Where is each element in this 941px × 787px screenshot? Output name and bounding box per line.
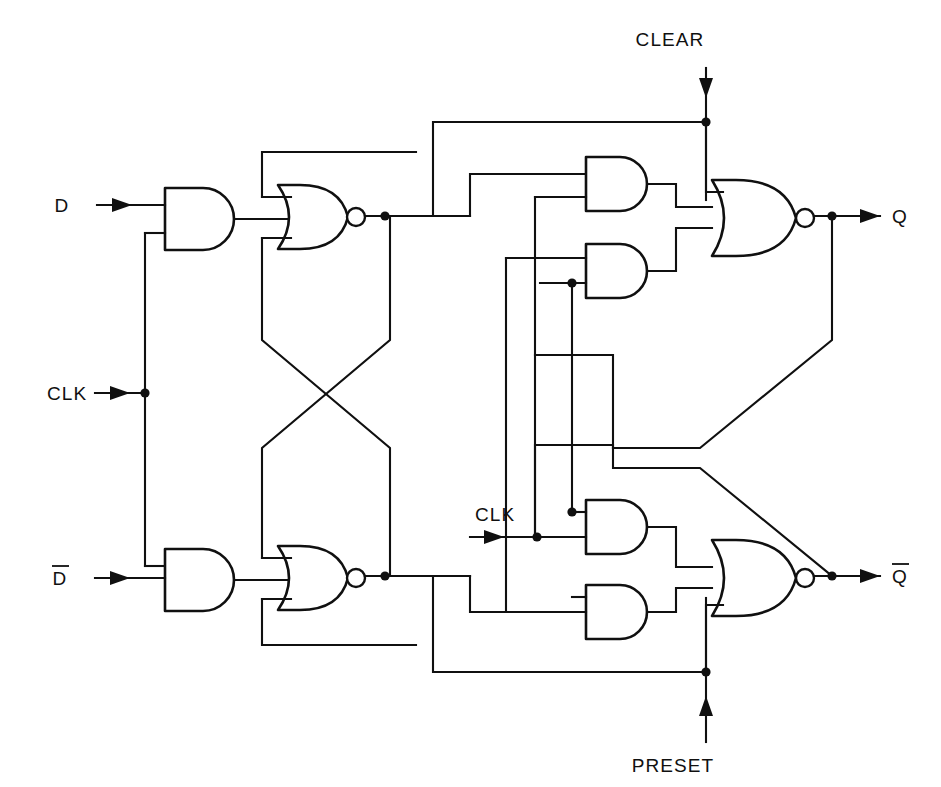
- label-q-bar: Q: [892, 564, 909, 587]
- label-clk-right: CLK: [475, 504, 515, 525]
- wire-cross-slave-b2: [535, 355, 613, 448]
- wire-cross-slave-a: [535, 445, 832, 576]
- gate-and-slave-q-top: [586, 157, 647, 211]
- arrow-clear-input: [699, 78, 713, 98]
- gate-nor-master-bottom: [278, 546, 365, 610]
- label-d-text: D: [55, 195, 70, 216]
- wire-cross-master-a: [262, 238, 390, 576]
- gate-nor-slave-qbar: [712, 540, 814, 616]
- circuit-schematic: D CLK D CLEAR CLK PRESET Q Q: [0, 0, 941, 787]
- wire-cross-master-b: [262, 216, 390, 558]
- label-d: D: [55, 195, 70, 216]
- arrow-d-input: [112, 198, 132, 212]
- bubble-nor-master-bottom: [347, 569, 365, 587]
- gate-and-slave-qbar-top: [586, 500, 647, 554]
- wire-master-q-branch: [470, 174, 586, 216]
- label-q: Q: [892, 206, 908, 227]
- bubble-nor-master-top: [347, 208, 365, 226]
- label-clear-text: CLEAR: [636, 29, 705, 50]
- junction-clk-left: [140, 388, 149, 397]
- label-d-bar: D: [52, 566, 69, 589]
- label-clk-left: CLK: [47, 383, 87, 404]
- bubble-nor-slave-qbar: [796, 569, 814, 587]
- gate-and-master-top: [165, 188, 234, 250]
- junction-master-qbar: [380, 571, 389, 580]
- label-q-text: Q: [892, 206, 908, 227]
- label-clk-right-text: CLK: [475, 504, 515, 525]
- label-clk-left-text: CLK: [47, 383, 87, 404]
- label-d-bar-text: D: [53, 568, 68, 589]
- arrow-clk-right: [484, 530, 504, 544]
- label-clear: CLEAR: [636, 29, 705, 50]
- wire-and-sqb-bot-out: [647, 588, 712, 612]
- wire-master-qbar-bus: [470, 576, 586, 612]
- logic-diagram-root: D CLK D CLEAR CLK PRESET Q Q: [0, 0, 941, 787]
- gate-and-slave-qbar-bottom: [586, 585, 647, 639]
- gate-and-slave-q-bottom: [586, 244, 647, 298]
- wire-master-qbar-down: [433, 576, 706, 672]
- bubble-nor-slave-q: [796, 209, 814, 227]
- label-q-bar-text: Q: [892, 566, 908, 587]
- wire-and-sq-top-out: [647, 184, 712, 207]
- wire-and-sq-bot-out: [647, 228, 712, 271]
- wire-and-sqb-top-out: [647, 527, 712, 567]
- gate-and-master-bottom: [165, 549, 234, 611]
- wire-master-q-to-slave: [433, 122, 706, 216]
- gate-nor-master-top: [278, 185, 365, 249]
- junction-clk-slave-tap: [567, 507, 576, 516]
- arrow-q-output: [860, 209, 880, 223]
- arrow-clk-left: [110, 386, 130, 400]
- label-preset: PRESET: [632, 755, 715, 776]
- arrow-qbar-output: [860, 569, 880, 583]
- junction-master-q: [380, 211, 389, 220]
- gate-nor-slave-q: [712, 180, 814, 256]
- label-preset-text: PRESET: [632, 755, 715, 776]
- arrow-dbar-input: [110, 571, 130, 585]
- arrow-preset-input: [699, 696, 713, 716]
